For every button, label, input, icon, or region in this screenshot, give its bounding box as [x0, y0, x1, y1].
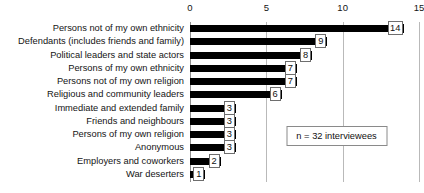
category-label: Political leaders and state actors [50, 49, 184, 62]
bar-value-label: 2 [209, 154, 220, 168]
bar [190, 91, 279, 98]
bar-value-label: 1 [193, 167, 204, 181]
category-label: Immediate and extended family [55, 102, 184, 115]
plot-area: 1498776333321n = 32 interviewees [190, 22, 419, 182]
bar-row: 8 [190, 49, 419, 62]
bar [190, 25, 401, 32]
x-axis-tick-labels: 051015 [190, 2, 419, 20]
y-axis-category-labels: Persons not of my own ethnicityDefendant… [0, 22, 188, 182]
category-label: Friends and neighbours [86, 115, 184, 128]
bar-value-label: 9 [315, 34, 326, 48]
bar-value-label: 14 [388, 21, 403, 35]
bar-value-label: 8 [300, 48, 311, 62]
bar-value-label: 3 [224, 114, 235, 128]
gridline-15 [419, 22, 420, 182]
bar-row: 14 [190, 22, 419, 35]
x-tick-label-10: 10 [337, 2, 348, 13]
bar-value-label: 3 [224, 127, 235, 141]
category-label: Religious and community leaders [47, 88, 184, 101]
bar-row: 7 [190, 62, 419, 75]
bar-row: 9 [190, 35, 419, 48]
category-label: Persons not of my own religion [57, 75, 184, 88]
bar-row: 7 [190, 75, 419, 88]
bar [190, 78, 294, 85]
category-label: War deserters [126, 168, 184, 181]
bar [190, 65, 294, 72]
category-label: Anonymous [135, 141, 184, 154]
category-label: Persons not of my own ethnicity [53, 22, 184, 35]
category-label: Persons of my own religion [72, 128, 184, 141]
bar-row: 6 [190, 88, 419, 101]
bar-row: 1 [190, 168, 419, 181]
bar-value-label: 3 [224, 101, 235, 115]
bar [190, 52, 309, 59]
bar-value-label: 6 [270, 87, 281, 101]
sample-size-annotation: n = 32 interviewees [286, 126, 387, 146]
category-label: Defendants (includes friends and family) [18, 35, 184, 48]
bar-value-label: 7 [285, 61, 296, 75]
x-tick-label-5: 5 [264, 2, 269, 13]
bar-value-label: 3 [224, 140, 235, 154]
bar-row: 3 [190, 102, 419, 115]
category-label: Persons of my own ethnicity [68, 62, 184, 75]
bar [190, 38, 324, 45]
x-tick-label-15: 15 [414, 2, 424, 13]
bar-row: 2 [190, 155, 419, 168]
bar-value-label: 7 [285, 74, 296, 88]
category-label: Employers and coworkers [77, 155, 184, 168]
x-tick-label-0: 0 [187, 2, 192, 13]
